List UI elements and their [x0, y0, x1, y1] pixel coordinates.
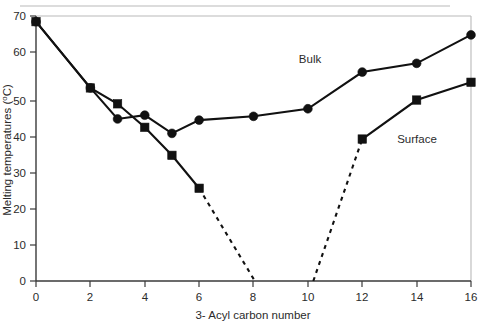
- y-tick-label-20: 20: [13, 203, 26, 215]
- chart-figure: 0 10 20 30 40 50 60 70 Melting temperatu…: [0, 0, 488, 325]
- data-point-surface-x2: [86, 84, 94, 92]
- x-tick-label-10: 10: [302, 291, 315, 303]
- x-axis-ticks: [36, 281, 471, 287]
- surface-series-label: Surface: [397, 133, 437, 145]
- x-tick-label-16: 16: [465, 291, 478, 303]
- y-tick-label-0: 0: [20, 275, 26, 287]
- data-point-bulk-x8: [249, 112, 258, 121]
- data-point-bulk-x14: [412, 59, 421, 68]
- x-axis: 0 2 4 6 8 10 12 14 16 3- Acyl carbon num…: [33, 281, 478, 321]
- x-tick-label-12: 12: [356, 291, 369, 303]
- y-tick-label-30: 30: [13, 167, 26, 179]
- data-point-bulk-x4: [140, 111, 149, 120]
- data-point-bulk-x5: [168, 129, 177, 138]
- data-point-surface-x14: [412, 96, 420, 104]
- x-tick-label-14: 14: [411, 291, 424, 303]
- data-point-bulk-x10: [303, 104, 312, 113]
- surface-descending-dash: [199, 188, 255, 281]
- data-point-surface-x3: [113, 100, 121, 108]
- x-tick-label-8: 8: [250, 291, 256, 303]
- melting-temperature-line-chart: 0 10 20 30 40 50 60 70 Melting temperatu…: [0, 0, 488, 325]
- x-tick-label-2: 2: [87, 291, 93, 303]
- data-point-bulk-x3: [113, 115, 122, 124]
- y-tick-label-10: 10: [13, 239, 26, 251]
- data-point-surface-x6: [195, 184, 203, 192]
- data-point-bulk-x12: [358, 68, 367, 77]
- y-axis-tick-labels: 0 10 20 30 40 50 60 70: [13, 10, 26, 287]
- data-point-bulk-x16: [467, 31, 476, 40]
- x-tick-label-0: 0: [33, 291, 39, 303]
- data-point-bulk-x6: [195, 116, 204, 125]
- data-point-surface-x5: [168, 151, 176, 159]
- y-tick-label-60: 60: [13, 46, 26, 58]
- data-point-surface-x16: [467, 78, 475, 86]
- plot-area: [32, 17, 476, 281]
- x-tick-label-4: 4: [142, 291, 149, 303]
- surface-ascending-dash: [313, 139, 362, 281]
- x-tick-label-6: 6: [196, 291, 202, 303]
- x-axis-tick-labels: 0 2 4 6 8 10 12 14 16: [33, 291, 478, 303]
- data-point-surface-x0: [32, 17, 40, 25]
- series-line-surface-2: [362, 82, 471, 139]
- data-point-surface-x12: [358, 135, 366, 143]
- y-tick-label-40: 40: [13, 131, 26, 143]
- y-axis-ticks: [30, 16, 36, 281]
- x-axis-title: 3- Acyl carbon number: [195, 309, 310, 321]
- data-point-surface-x4: [141, 123, 149, 131]
- y-axis: 0 10 20 30 40 50 60 70 Melting temperatu…: [0, 10, 36, 287]
- y-tick-label-70: 70: [13, 10, 26, 22]
- bulk-series-label: Bulk: [299, 53, 322, 65]
- y-axis-title: Melting temperatures (oC): [0, 84, 13, 216]
- y-tick-label-50: 50: [13, 95, 26, 107]
